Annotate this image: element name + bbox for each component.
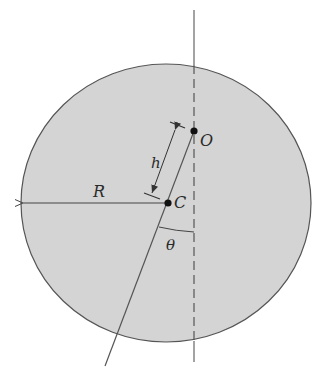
label-o: O <box>200 131 213 150</box>
label-c: C <box>174 193 186 212</box>
label-r: R <box>92 182 105 201</box>
physical-pendulum-diagram: O C R h θ <box>0 0 327 383</box>
label-theta: θ <box>166 236 175 254</box>
label-h: h <box>151 154 161 172</box>
point-o <box>190 127 197 134</box>
point-c <box>164 199 171 206</box>
